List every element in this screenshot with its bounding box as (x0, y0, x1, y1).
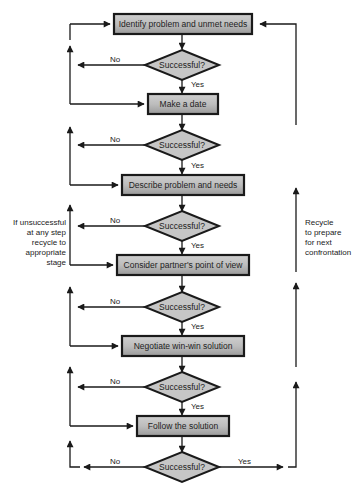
no-label-2: No (110, 135, 120, 145)
left-recycle-note: If unsuccessful at any step recycle to a… (0, 218, 66, 268)
decision-label-5: Successful? (145, 381, 219, 393)
step-label-6: Follow the solution (137, 416, 229, 436)
no-label-4: No (110, 297, 120, 307)
left-note-line-5: stage (0, 258, 66, 268)
decision-label-2: Successful? (145, 139, 219, 151)
yes-label-2: Yes (191, 161, 204, 171)
decision-label-1: Successful? (145, 59, 219, 71)
step-label-2: Make a date (148, 94, 218, 114)
yes-label-1: Yes (191, 80, 204, 90)
right-recycle-to-start-arrow (260, 24, 296, 125)
decision-label-6: Successful? (145, 461, 219, 473)
right-note-line-3: for next (305, 238, 357, 248)
yes-label-4: Yes (191, 322, 204, 332)
right-note-line-4: confrontation (305, 248, 357, 258)
left-note-line-3: recycle to (0, 238, 66, 248)
no-label-1: No (110, 55, 120, 65)
step-label-3: Describe problem and needs (122, 175, 244, 195)
left-note-line-1: If unsuccessful (0, 218, 66, 228)
step-label-1: Identify problem and unmet needs (114, 14, 252, 34)
left-note-line-2: at any step (0, 228, 66, 238)
left-recycle-up-6 (70, 441, 80, 467)
right-recycle-line-1 (288, 385, 296, 467)
yes-label-6: Yes (238, 457, 251, 467)
right-note-line-2: to prepare (305, 228, 357, 238)
no-label-5: No (110, 377, 120, 387)
right-note-line-1: Recycle (305, 218, 357, 228)
yes-label-5: Yes (191, 402, 204, 412)
step-label-4: Consider partner's point of view (117, 255, 249, 275)
decision-label-3: Successful? (145, 220, 219, 232)
left-note-line-4: appropriate (0, 248, 66, 258)
step-label-5: Negotiate win-win solution (122, 336, 244, 356)
no-label-3: No (110, 216, 120, 226)
yes-label-3: Yes (191, 241, 204, 251)
right-recycle-note: Recycle to prepare for next confrontatio… (305, 218, 357, 258)
decision-label-4: Successful? (145, 301, 219, 313)
no-label-6: No (110, 457, 120, 467)
